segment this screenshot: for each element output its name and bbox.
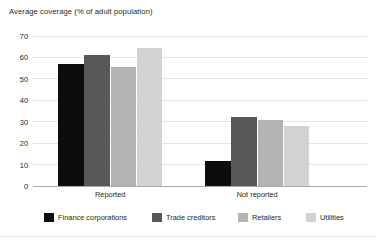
legend-swatch-icon: [238, 213, 248, 222]
y-tick-label: 30: [20, 117, 28, 126]
y-tick-label: 10: [20, 160, 28, 169]
y-axis-labels: 010203040506070: [0, 36, 28, 186]
chart-container: Average coverage (% of adult population)…: [0, 0, 376, 240]
bar: [231, 117, 257, 186]
legend-item[interactable]: Utilities: [306, 210, 344, 224]
x-tick-label: Reported: [95, 190, 125, 199]
plot-area: [33, 36, 367, 186]
legend-swatch-icon: [152, 213, 162, 222]
bar: [84, 55, 110, 186]
y-tick-label: 0: [24, 182, 28, 191]
legend-item[interactable]: Trade creditors: [152, 210, 215, 224]
legend-label: Retailers: [252, 213, 281, 222]
axis-baseline: [33, 186, 367, 187]
bar: [284, 126, 310, 186]
legend-label: Finance corporations: [58, 213, 127, 222]
y-tick-label: 70: [20, 32, 28, 41]
legend-swatch-icon: [306, 213, 316, 222]
bar: [58, 64, 84, 186]
y-tick-label: 40: [20, 96, 28, 105]
bottom-divider: [0, 236, 376, 237]
y-tick-label: 50: [20, 74, 28, 83]
legend-label: Trade creditors: [166, 213, 215, 222]
bar: [258, 120, 284, 186]
bar: [205, 161, 231, 186]
chart-legend: Finance corporationsTrade creditorsRetai…: [0, 210, 376, 226]
legend-label: Utilities: [320, 213, 344, 222]
legend-item[interactable]: Retailers: [238, 210, 281, 224]
chart-title: Average coverage (% of adult population): [9, 7, 153, 16]
bar: [111, 67, 137, 186]
legend-item[interactable]: Finance corporations: [44, 210, 127, 224]
legend-swatch-icon: [44, 213, 54, 222]
bars-layer: [33, 36, 367, 186]
y-tick-label: 20: [20, 139, 28, 148]
y-tick-label: 60: [20, 53, 28, 62]
x-tick-label: Not reported: [237, 190, 278, 199]
bar: [137, 48, 163, 186]
